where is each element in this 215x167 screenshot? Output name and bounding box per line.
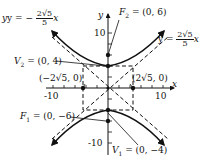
focus-value: = (0, −6): [30, 111, 75, 121]
x-tick-label-neg10: -10: [44, 92, 59, 101]
vertex-v1-point: [106, 108, 110, 112]
origin-point: [106, 86, 109, 89]
focus-f2-label: F2 = (0, 6): [119, 8, 167, 19]
y-axis-label: y: [98, 11, 103, 20]
asymptote-negative-label: yy = − 2√55x: [2, 10, 58, 27]
asymptote-pos-fraction: 2√55: [176, 31, 193, 48]
focus-value: = (0, 6): [129, 7, 166, 17]
asymptote-neg-var: x: [53, 13, 58, 23]
asymptote-pos-prefix: y =: [158, 34, 176, 44]
vertex-value: = (0, 4): [24, 56, 61, 66]
vertex-value: = (0, −4): [122, 145, 167, 155]
fraction-denominator: 5: [42, 19, 47, 27]
y-tick-label-10: 10: [94, 29, 105, 38]
covertex-left-label: (−2√5, 0): [39, 74, 82, 83]
vertex-v2-label: V2 = (0, 4): [14, 57, 62, 68]
asymptote-neg-prefix: y = −: [7, 13, 33, 23]
y-tick-label-neg10: -10: [88, 139, 103, 148]
covertex-right-label: (2√5, 0): [132, 74, 168, 83]
vertex-v1-label: V1 = (0, −4): [112, 146, 167, 157]
x-axis-label: x: [172, 80, 177, 89]
asymptote-neg-fraction: 2√55: [36, 10, 53, 27]
asymptote-positive-label: y = 2√55x: [158, 31, 199, 48]
asymptote-pos-var: x: [194, 34, 199, 44]
focus-f1-label: F1 = (0, −6): [20, 112, 75, 123]
fraction-denominator: 5: [182, 40, 187, 48]
focus-f1-point: [106, 119, 110, 123]
x-tick-label-10: 10: [155, 92, 166, 101]
vertex-v2-point: [106, 64, 110, 68]
